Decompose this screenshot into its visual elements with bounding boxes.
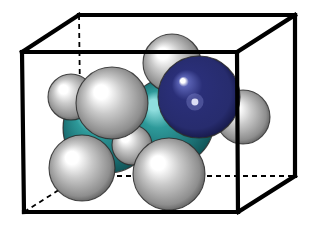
box-edge-front_top_right-to-back_top_right bbox=[237, 15, 295, 52]
atom-hydrogen-3-sphere bbox=[49, 135, 115, 201]
molecular-model-figure bbox=[0, 0, 313, 227]
box-edge-front_top_left-to-back_top_left bbox=[22, 15, 79, 52]
box-edge-front_bottom_right-to-front_top_right bbox=[237, 52, 238, 212]
atom-nitrogen-1-specular-glow bbox=[186, 93, 203, 110]
atom-hydrogen-2 bbox=[76, 67, 148, 139]
box-edge-front_bottom_right-to-back_bottom_right bbox=[238, 176, 295, 212]
atom-hydrogen-4 bbox=[133, 138, 205, 210]
scene-canvas bbox=[0, 0, 313, 227]
atom-nitrogen-1 bbox=[158, 56, 240, 138]
box-edge-front_top_left-to-front_bottom_left bbox=[22, 52, 24, 212]
atom-hydrogen-3 bbox=[49, 135, 115, 201]
atom-hydrogen-4-sphere bbox=[133, 138, 205, 210]
atom-hydrogen-2-sphere bbox=[76, 67, 148, 139]
